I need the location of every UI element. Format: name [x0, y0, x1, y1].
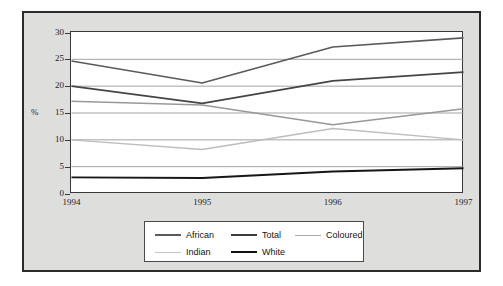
y-tick-mark: [65, 140, 70, 141]
y-tick-label: 5: [60, 162, 65, 171]
legend-label: Coloured: [326, 230, 363, 240]
x-tick-label: 1994: [63, 197, 81, 207]
series-line: [71, 128, 463, 149]
y-tick-label: 30: [55, 28, 64, 37]
y-tick-mark: [65, 86, 70, 87]
y-axis-tick-labels: 051015202530: [38, 0, 64, 286]
chart-figure: % 051015202530 1994199519961997 AfricanT…: [0, 0, 503, 286]
y-tick-mark: [65, 194, 70, 195]
y-tick-label: 20: [55, 81, 64, 90]
legend-label: Indian: [186, 247, 211, 257]
legend-item[interactable]: White: [231, 244, 285, 260]
legend-label: White: [262, 247, 285, 257]
legend-item[interactable]: Coloured: [295, 227, 363, 243]
series-line: [71, 72, 463, 103]
series-canvas: [70, 31, 466, 196]
y-tick-label: 15: [55, 108, 64, 117]
plot-area: [70, 31, 463, 193]
y-tick-mark: [65, 33, 70, 34]
legend-item[interactable]: Total: [231, 227, 281, 243]
y-tick-mark: [65, 167, 70, 168]
legend-swatch-icon: [155, 252, 181, 253]
y-tick-mark: [65, 113, 70, 114]
legend-swatch-icon: [155, 234, 181, 236]
legend-item[interactable]: Indian: [155, 244, 211, 260]
x-tick-label: 1997: [455, 197, 473, 207]
chart-legend: AfricanTotalColouredIndianWhite: [144, 221, 364, 262]
legend-label: Total: [262, 230, 281, 240]
series-line: [71, 168, 463, 178]
legend-item[interactable]: African: [155, 227, 214, 243]
y-tick-mark: [65, 59, 70, 60]
legend-swatch-icon: [231, 251, 257, 253]
x-tick-label: 1995: [193, 197, 211, 207]
x-axis-tick-labels: 1994199519961997: [0, 197, 503, 211]
y-tick-label: 25: [55, 54, 64, 63]
legend-swatch-icon: [231, 234, 257, 236]
y-tick-label: 10: [55, 135, 64, 144]
legend-label: African: [186, 230, 214, 240]
x-tick-label: 1996: [324, 197, 342, 207]
legend-swatch-icon: [295, 235, 321, 236]
